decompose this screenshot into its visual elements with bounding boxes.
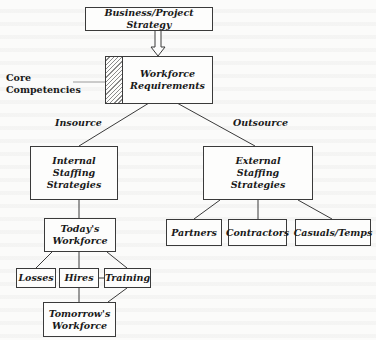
partners-label: Partners bbox=[171, 227, 217, 239]
internal-staffing-strategies-label: Internal Staffing Strategies bbox=[47, 155, 102, 191]
casuals-temps-label: Casuals/Temps bbox=[294, 227, 373, 239]
training-label: Training bbox=[105, 272, 150, 284]
contractors-label: Contractors bbox=[226, 227, 289, 239]
losses-box: Losses bbox=[16, 268, 56, 288]
training-box: Training bbox=[104, 268, 151, 288]
business-project-strategy-box: Business/Project Strategy bbox=[85, 7, 213, 31]
external-staffing-strategies-box: External Staffing Strategies bbox=[203, 146, 313, 200]
todays-workforce-label: Today's Workforce bbox=[52, 223, 107, 247]
insource-label: Insource bbox=[55, 117, 102, 129]
todays-workforce-box: Today's Workforce bbox=[44, 218, 116, 252]
contractors-box: Contractors bbox=[228, 219, 287, 246]
business-project-strategy-label: Business/Project Strategy bbox=[86, 7, 212, 31]
external-staffing-strategies-label: External Staffing Strategies bbox=[231, 155, 286, 191]
casuals-temps-box: Casuals/Temps bbox=[295, 219, 371, 246]
partners-box: Partners bbox=[166, 219, 222, 246]
hires-label: Hires bbox=[65, 272, 94, 284]
outsource-label: Outsource bbox=[233, 117, 288, 129]
core-competencies-label: Core Competencies bbox=[6, 72, 81, 96]
losses-label: Losses bbox=[18, 272, 53, 284]
tomorrows-workforce-box: Tomorrow's Workforce bbox=[43, 302, 116, 337]
core-competencies-hatch bbox=[105, 56, 123, 104]
hires-box: Hires bbox=[59, 268, 99, 288]
down-arrow-icon bbox=[151, 31, 165, 56]
tomorrows-workforce-label: Tomorrow's Workforce bbox=[49, 308, 111, 332]
internal-staffing-strategies-box: Internal Staffing Strategies bbox=[30, 146, 118, 200]
workforce-requirements-label: Workforce Requirements bbox=[130, 68, 205, 92]
